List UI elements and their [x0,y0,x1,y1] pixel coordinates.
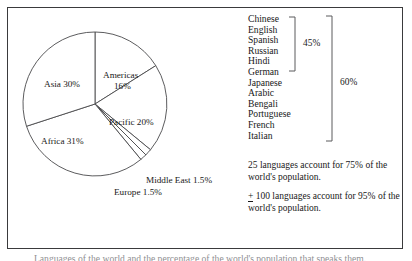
bracket-label-45: 45% [303,38,320,48]
figure-panel: Asia 30% Americas 16% Pacific 20% Africa… [0,0,412,261]
list-item: Russian [248,46,398,57]
pie-label-americas: Americas [103,70,139,80]
language-list: Chinese English Spanish Russian Hindi Ge… [248,14,398,141]
list-item: French [248,120,398,131]
note-75-percent: 25 languages account for 75% of the worl… [248,160,400,183]
pie-chart-svg: Asia 30% Americas 16% Pacific 20% Africa… [8,8,233,243]
pie-label-europe: Europe 1.5% [114,187,162,197]
figure-caption: Languages of the world and the percentag… [34,253,384,261]
pie-label-africa: Africa 31% [41,136,84,146]
pie-label-asia: Asia 30% [44,79,80,89]
list-item: German [248,67,398,78]
pie-label-middle-east: Middle East 1.5% [146,175,212,185]
list-item: Italian [248,131,398,142]
bracket-label-60: 60% [340,77,357,87]
pie-label-pacific: Pacific 20% [109,117,154,127]
pie-chart: Asia 30% Americas 16% Pacific 20% Africa… [8,8,233,243]
language-panel: Chinese English Spanish Russian Hindi Ge… [248,14,398,141]
note-95-percent-text: 100 languages account for 95% of the wor… [248,191,400,213]
list-item: Chinese [248,14,398,25]
note-95-percent: + 100 languages account for 95% of the w… [248,191,400,214]
pie-label-americas-value: 16% [114,81,131,91]
